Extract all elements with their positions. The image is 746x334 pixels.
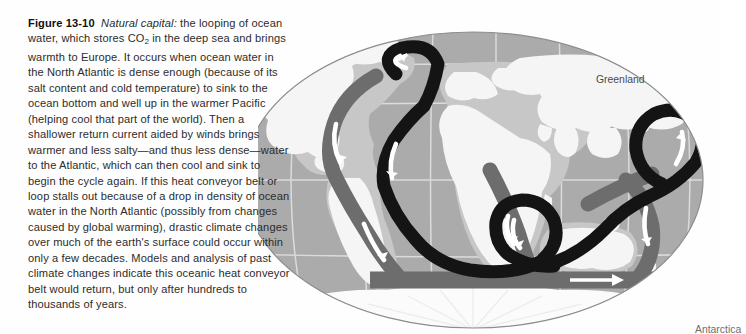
figure-caption: Figure 13-10 Natural capital: the loopin… [28, 16, 290, 313]
world-map-svg [258, 28, 728, 330]
caption-italic-lead: Natural capital: [101, 17, 177, 29]
caption-paragraph: Figure 13-10 Natural capital: the loopin… [28, 16, 290, 313]
caption-text-b: in the deep sea and brings warmth to Eur… [28, 32, 290, 310]
figure-number: Figure 13-10 [28, 17, 95, 29]
world-map: Greenland Antarctica Warm Water Cold Wat… [258, 28, 728, 330]
southeast-asia [587, 128, 622, 158]
